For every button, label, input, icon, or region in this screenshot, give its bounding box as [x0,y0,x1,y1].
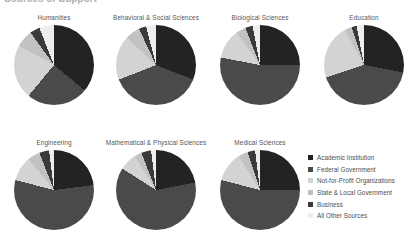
pie-chart-title: Behavioral & Social Sciences [104,14,208,21]
pie-graphic[interactable] [220,25,300,105]
figure-canvas: Sources of Support HumanitiesBehavioral … [0,0,416,250]
figure-title-clipped: Sources of Support [0,0,416,9]
legend-item-other[interactable]: All Other Sources [306,210,416,222]
legend-item-federal[interactable]: Federal Government [306,164,416,176]
pie-graphic-wrapper [324,25,404,105]
legend-label-federal: Federal Government [317,166,376,173]
legend-swatch-business [308,202,313,207]
legend-item-academic[interactable]: Academic Institution [306,152,416,164]
pie-chart-panel: Medical Sciences [208,139,312,250]
legend-label-business: Business [317,201,343,208]
pie-chart-panel: Humanities [2,14,106,125]
pie-graphic[interactable] [220,150,300,230]
pie-graphic-wrapper [14,150,94,230]
legend-swatch-federal [308,167,313,172]
pie-graphic[interactable] [14,150,94,230]
pie-chart-panel: Biological Sciences [208,14,312,125]
pie-chart-title: Biological Sciences [208,14,312,21]
legend-label-state_local: State & Local Government [317,189,392,196]
pie-graphic-wrapper [220,150,300,230]
pie-chart-panel: Behavioral & Social Sciences [104,14,208,125]
pie-graphic[interactable] [116,25,196,105]
legend-label-academic: Academic Institution [317,154,374,161]
legend-item-state_local[interactable]: State & Local Government [306,187,416,199]
pie-chart-title: Mathematical & Physical Sciences [104,139,208,146]
pie-graphic[interactable] [324,25,404,105]
legend-swatch-academic [308,155,313,160]
pie-chart-title: Humanities [2,14,106,21]
pie-chart-panel: Engineering [2,139,106,250]
pie-chart-title: Education [312,14,416,21]
pie-chart-title: Engineering [2,139,106,146]
pie-graphic-wrapper [220,25,300,105]
pie-chart-panel: Education [312,14,416,125]
legend-label-nonprofit: Not-for-Profit Organizations [317,177,395,184]
legend-swatch-other [308,213,313,218]
legend-item-nonprofit[interactable]: Not-for-Profit Organizations [306,175,416,187]
pie-graphic-wrapper [116,25,196,105]
legend-item-business[interactable]: Business [306,198,416,210]
legend-swatch-nonprofit [308,178,313,183]
legend-label-other: All Other Sources [317,212,367,219]
legend: Academic InstitutionFederal GovernmentNo… [306,152,416,222]
pie-chart-title: Medical Sciences [208,139,312,146]
pie-chart-panel: Mathematical & Physical Sciences [104,139,208,250]
figure-title-text: Sources of Support [4,0,416,4]
pie-graphic-wrapper [14,25,94,105]
pie-graphic[interactable] [14,25,94,105]
pie-graphic-wrapper [116,150,196,230]
legend-swatch-state_local [308,190,313,195]
pie-graphic[interactable] [116,150,196,230]
